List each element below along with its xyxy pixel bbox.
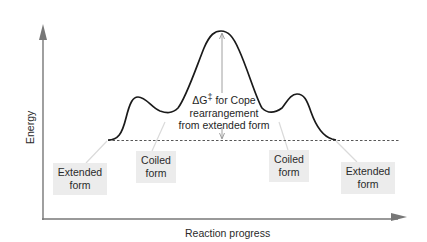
label-line: Coiled [271,153,307,166]
label-line: Extended [343,165,393,178]
label-line: Extended [55,166,105,179]
label-line: form [271,166,307,179]
x-axis-arrow-icon [391,213,407,221]
label-line: form [55,179,105,192]
y-axis-label: Energy [24,111,36,144]
label-line: form [138,167,174,180]
label-line: form [343,178,393,191]
y-axis [39,24,47,220]
annotation-line-3: from extended form [172,119,276,132]
label-extended-form-left: Extended form [53,163,107,195]
label-coiled-form-right: Coiled form [269,150,309,182]
annotation-line-1-text: for Cope [213,94,256,106]
x-axis-label: Reaction progress [185,227,270,239]
y-axis-arrow-icon [39,24,47,40]
delta-g-symbol: ΔG [192,94,207,106]
annotation-line-1: ΔG‡ for Cope [172,94,276,107]
label-coiled-form-left: Coiled form [136,151,176,183]
annotation-line-2: rearrangement [172,107,276,120]
label-extended-form-right: Extended form [341,162,395,194]
label-line: Coiled [138,154,174,167]
x-axis [42,213,407,221]
delta-g-annotation: ΔG‡ for Cope rearrangement from extended… [172,94,276,132]
